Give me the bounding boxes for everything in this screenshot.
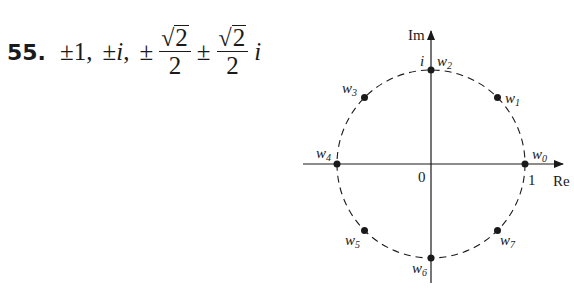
- imaginary-axis-label: Im: [408, 27, 425, 43]
- real-axis-label: Re: [553, 173, 570, 189]
- i-label: i: [420, 53, 424, 69]
- point-w0: [522, 161, 529, 168]
- complex-plane-diagram: Im Re 0 1 i w0 w1 w2 w3 w4 w5 w6 w7: [0, 0, 574, 296]
- label-w6: w6: [412, 260, 427, 278]
- label-w5: w5: [345, 232, 360, 250]
- label-w4: w4: [316, 145, 331, 163]
- point-w6: [428, 255, 435, 262]
- point-w2: [428, 67, 435, 74]
- label-w1: w1: [505, 90, 520, 108]
- one-label: 1: [528, 172, 536, 188]
- point-w5: [361, 227, 368, 234]
- label-w0: w0: [532, 146, 547, 164]
- point-w1: [494, 94, 501, 101]
- point-w4: [334, 161, 341, 168]
- label-w3: w3: [342, 80, 357, 98]
- point-w3: [361, 94, 368, 101]
- label-w2: w2: [437, 53, 452, 71]
- label-w7: w7: [500, 232, 516, 250]
- origin-label: 0: [418, 169, 426, 185]
